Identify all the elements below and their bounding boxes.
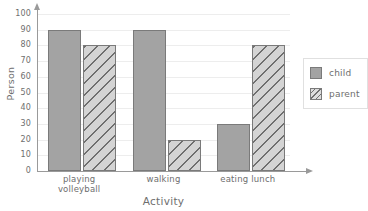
y-axis-tick-label: 10 bbox=[20, 151, 31, 159]
bar-child-walking[interactable] bbox=[133, 30, 166, 171]
bar-parent-playing-volleyball[interactable] bbox=[83, 45, 116, 171]
y-axis-tick-label: 20 bbox=[20, 136, 31, 144]
legend-item-parent[interactable]: parent bbox=[310, 86, 360, 102]
x-axis-category-label: walking bbox=[121, 175, 205, 185]
y-axis-tick-label: 40 bbox=[20, 104, 31, 112]
bar-child-playing-volleyball[interactable] bbox=[48, 30, 81, 171]
bar-parent-eating-lunch[interactable] bbox=[252, 45, 285, 171]
bar-child-eating-lunch[interactable] bbox=[217, 124, 250, 171]
legend: child parent bbox=[303, 58, 368, 109]
bar-group bbox=[217, 14, 285, 171]
legend-swatch-parent-icon bbox=[310, 88, 322, 100]
y-axis-tick-label: 0 bbox=[26, 167, 31, 175]
y-axis-title: Person bbox=[5, 54, 16, 114]
legend-item-child[interactable]: child bbox=[310, 65, 360, 81]
y-axis-tick-label: 100 bbox=[15, 10, 31, 18]
x-axis-arrow-icon bbox=[306, 168, 313, 174]
x-axis-line bbox=[37, 171, 307, 172]
y-axis-arrow-icon bbox=[34, 3, 40, 10]
y-axis-tick-label: 80 bbox=[20, 41, 31, 49]
y-axis-tick-label: 60 bbox=[20, 73, 31, 81]
bar-groups bbox=[37, 14, 290, 171]
y-axis-line bbox=[37, 8, 38, 171]
plot-area bbox=[37, 14, 290, 171]
legend-label-parent: parent bbox=[329, 89, 360, 99]
legend-label-child: child bbox=[329, 68, 351, 78]
y-axis-tick-label: 30 bbox=[20, 120, 31, 128]
y-axis-tick-label: 90 bbox=[20, 26, 31, 34]
legend-swatch-child-icon bbox=[310, 67, 322, 79]
x-axis-category-label: eating lunch bbox=[206, 175, 290, 185]
bar-chart: 1009080706050403020100 Person playingvol… bbox=[0, 0, 368, 211]
bar-group bbox=[48, 14, 116, 171]
bar-group bbox=[133, 14, 201, 171]
bar-parent-walking[interactable] bbox=[168, 140, 201, 171]
x-axis-title: Activity bbox=[37, 195, 290, 207]
x-axis-category-label: playingvolleyball bbox=[37, 175, 121, 194]
y-axis-tick-label: 50 bbox=[20, 89, 31, 97]
y-axis-tick-label: 70 bbox=[20, 57, 31, 65]
